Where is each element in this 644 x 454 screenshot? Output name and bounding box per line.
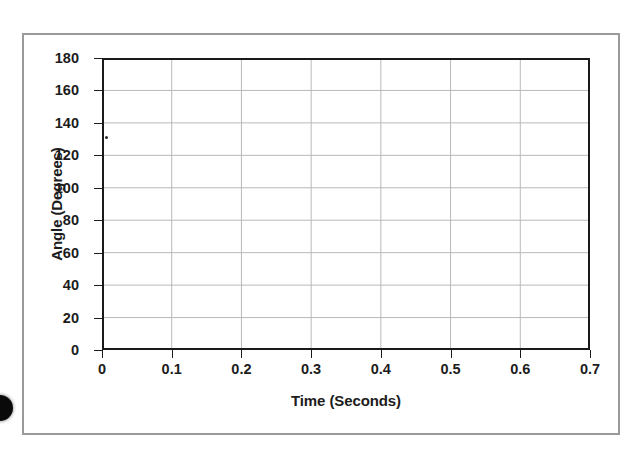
y-tick-20 — [94, 318, 102, 319]
x-tick-label-0.6: 0.6 — [490, 362, 550, 377]
y-tick-label-20: 20 — [0, 311, 88, 326]
gridlines — [102, 58, 590, 350]
y-tick-100 — [94, 188, 102, 189]
y-tick-label-0: 0 — [0, 343, 88, 358]
x-tick-label-0.1: 0.1 — [142, 362, 202, 377]
x-tick-label-0.0: 0 — [72, 362, 132, 377]
x-tick-0.4 — [381, 350, 382, 358]
y-tick-label-80: 80 — [0, 213, 88, 228]
x-tick-0.6 — [520, 350, 521, 358]
x-tick-0.7 — [590, 350, 591, 358]
x-axis-title: Time (Seconds) — [102, 392, 590, 409]
axis-speck-artifact — [105, 136, 108, 139]
x-tick-0.2 — [241, 350, 242, 358]
x-tick-label-0.7: 0.7 — [560, 362, 620, 377]
y-tick-140 — [94, 123, 102, 124]
y-tick-180 — [94, 58, 102, 59]
x-tick-label-0.5: 0.5 — [421, 362, 481, 377]
y-tick-label-160: 160 — [0, 83, 88, 98]
y-tick-40 — [94, 285, 102, 286]
y-tick-120 — [94, 155, 102, 156]
y-tick-60 — [94, 253, 102, 254]
chart-figure: 0 20 40 60 80 100 120 140 160 180 0 0.1 … — [0, 0, 644, 454]
x-tick-label-0.3: 0.3 — [281, 362, 341, 377]
y-tick-label-100: 100 — [0, 181, 88, 196]
plot-area — [102, 58, 590, 350]
y-axis-title: Angle (Degrees) — [48, 58, 65, 350]
x-tick-0.5 — [451, 350, 452, 358]
y-tick-80 — [94, 220, 102, 221]
x-tick-label-0.4: 0.4 — [351, 362, 411, 377]
y-tick-label-120: 120 — [0, 148, 88, 163]
y-tick-0 — [94, 350, 102, 351]
y-tick-label-40: 40 — [0, 278, 88, 293]
y-tick-label-60: 60 — [0, 246, 88, 261]
y-tick-160 — [94, 90, 102, 91]
y-tick-label-140: 140 — [0, 116, 88, 131]
x-tick-0.1 — [172, 350, 173, 358]
x-tick-0.3 — [311, 350, 312, 358]
x-tick-0.0 — [102, 350, 103, 358]
x-tick-label-0.2: 0.2 — [211, 362, 271, 377]
y-tick-label-180: 180 — [0, 51, 88, 66]
scan-artifact-blob — [0, 395, 13, 421]
